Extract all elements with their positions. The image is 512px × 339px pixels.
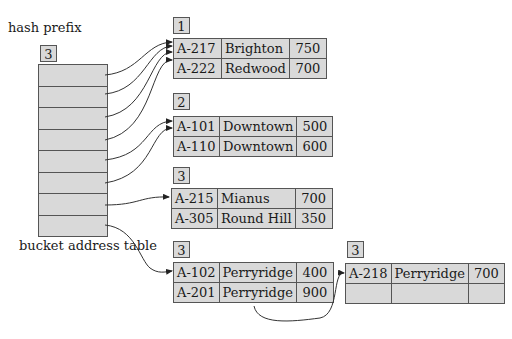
directory-entry-6 xyxy=(39,194,107,216)
table-row: A-305 Round Hill 350 xyxy=(172,209,333,229)
pointer-entry-0 xyxy=(105,42,172,75)
branch-name: Round Hill xyxy=(218,209,296,229)
table-row: A-215 Mianus 700 xyxy=(172,189,333,209)
bucket-3: A-215 Mianus 700 A-305 Round Hill 350 xyxy=(171,188,333,229)
bucket-4-local-depth: 3 xyxy=(173,241,190,258)
account-number: A-102 xyxy=(174,263,220,283)
table-row: A-201 Perryridge 900 xyxy=(174,283,334,303)
overflow-bucket-local-depth: 3 xyxy=(347,241,364,258)
bucket-address-table-label: bucket address table xyxy=(19,238,157,253)
branch-name: Brighton xyxy=(222,39,290,59)
account-number xyxy=(346,284,392,304)
branch-name: Downtown xyxy=(220,117,297,137)
directory-entry-2 xyxy=(39,108,107,130)
hash-prefix-label: hash prefix xyxy=(8,20,82,35)
table-row: A-110 Downtown 600 xyxy=(174,137,333,157)
balance xyxy=(468,284,504,304)
balance: 700 xyxy=(289,59,326,79)
bucket-address-table xyxy=(38,64,108,237)
bucket-2-local-depth: 2 xyxy=(173,93,190,110)
table-row xyxy=(346,284,505,304)
balance: 500 xyxy=(297,117,333,137)
directory-entry-5 xyxy=(39,173,107,195)
table-row: A-217 Brighton 750 xyxy=(174,39,327,59)
directory-entry-3 xyxy=(39,130,107,152)
pointer-entry-2 xyxy=(105,52,172,117)
table-row: A-218 Perryridge 700 xyxy=(346,264,505,284)
branch-name: Perryridge xyxy=(219,283,296,303)
branch-name: Perryridge xyxy=(391,264,468,284)
balance: 600 xyxy=(297,137,333,157)
branch-name: Downtown xyxy=(220,137,297,157)
pointer-entry-4 xyxy=(105,121,172,160)
account-number: A-305 xyxy=(172,209,218,229)
account-number: A-215 xyxy=(172,189,218,209)
directory-entry-7 xyxy=(39,216,107,238)
balance: 750 xyxy=(289,39,326,59)
account-number: A-101 xyxy=(174,117,220,137)
pointer-entry-5 xyxy=(105,128,172,183)
pointer-entry-3 xyxy=(105,60,172,140)
branch-name: Redwood xyxy=(222,59,290,79)
balance: 700 xyxy=(468,264,504,284)
branch-name: Mianus xyxy=(218,189,296,209)
balance: 350 xyxy=(295,209,332,229)
bucket-4: A-102 Perryridge 400 A-201 Perryridge 90… xyxy=(173,262,334,303)
bucket-3-local-depth: 3 xyxy=(173,167,190,184)
balance: 400 xyxy=(296,263,333,283)
bucket-2: A-101 Downtown 500 A-110 Downtown 600 xyxy=(173,116,333,157)
bucket-1-local-depth: 1 xyxy=(173,17,190,34)
account-number: A-218 xyxy=(346,264,392,284)
table-row: A-222 Redwood 700 xyxy=(174,59,327,79)
account-number: A-222 xyxy=(174,59,222,79)
balance: 700 xyxy=(295,189,332,209)
branch-name xyxy=(391,284,468,304)
directory-entry-1 xyxy=(39,87,107,109)
pointer-entry-6 xyxy=(105,197,169,205)
pointer-entry-1 xyxy=(105,46,172,94)
directory-entry-0 xyxy=(39,65,107,87)
directory-entry-4 xyxy=(39,151,107,173)
bucket-1: A-217 Brighton 750 A-222 Redwood 700 xyxy=(173,38,327,79)
overflow-bucket: A-218 Perryridge 700 xyxy=(345,263,505,304)
branch-name: Perryridge xyxy=(219,263,296,283)
account-number: A-110 xyxy=(174,137,220,157)
account-number: A-217 xyxy=(174,39,222,59)
account-number: A-201 xyxy=(174,283,220,303)
balance: 900 xyxy=(296,283,333,303)
global-depth-box: 3 xyxy=(40,45,57,62)
table-row: A-101 Downtown 500 xyxy=(174,117,333,137)
table-row: A-102 Perryridge 400 xyxy=(174,263,334,283)
